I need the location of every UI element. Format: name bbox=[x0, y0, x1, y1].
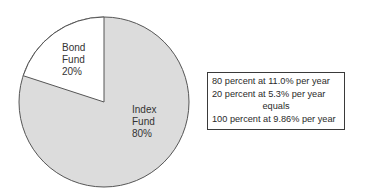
bond-percent: 20% bbox=[62, 66, 85, 78]
return-annotation-box: 80 percent at 11.0% per year 20 percent … bbox=[207, 72, 345, 130]
bond-label-line: Bond bbox=[62, 42, 85, 54]
index-percent: 80% bbox=[132, 128, 156, 140]
annotation-line: 20 percent at 5.3% per year bbox=[208, 88, 344, 101]
index-label-line: Index bbox=[132, 104, 156, 116]
annotation-line: 100 percent at 9.86% per year bbox=[208, 113, 344, 126]
annotation-line: 80 percent at 11.0% per year bbox=[208, 75, 344, 88]
index-fund-label: Index Fund 80% bbox=[132, 104, 156, 140]
bond-label-line: Fund bbox=[62, 54, 85, 66]
index-label-line: Fund bbox=[132, 116, 156, 128]
annotation-line: equals bbox=[208, 100, 344, 113]
bond-fund-label: Bond Fund 20% bbox=[62, 42, 85, 78]
